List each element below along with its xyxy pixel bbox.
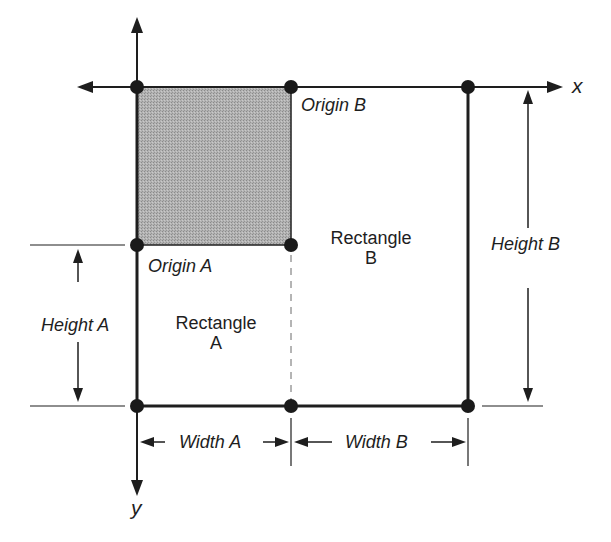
height-a-label: Height A <box>41 316 109 334</box>
vertex-dot <box>130 238 144 252</box>
x-axis-right-arrow-icon <box>547 81 563 93</box>
vertex-dot <box>130 80 144 94</box>
coordinate-diagram <box>0 0 611 542</box>
origin-a-label: Origin A <box>148 257 212 275</box>
x-axis-label: x <box>572 75 583 96</box>
shaded-region <box>137 87 291 245</box>
rectangle-a-label-line2: A <box>161 333 271 353</box>
rectangle-b-label: Rectangle B <box>316 228 426 268</box>
y-axis-down-arrow-icon <box>131 480 143 496</box>
y-axis-up-arrow-icon <box>131 17 143 33</box>
width-a-label: Width A <box>179 433 241 451</box>
rectangle-a-label: Rectangle A <box>161 313 271 353</box>
rectangle-b-label-line1: Rectangle <box>316 228 426 248</box>
vertex-dot <box>461 399 475 413</box>
x-axis-left-arrow-icon <box>77 81 93 93</box>
extension-lines <box>30 245 543 466</box>
y-axis-label: y <box>131 497 142 518</box>
vertex-dot <box>284 238 298 252</box>
origin-b-label: Origin B <box>301 96 366 114</box>
vertex-dot <box>130 399 144 413</box>
rectangle-b-label-line2: B <box>316 248 426 268</box>
height-b-label: Height B <box>491 235 560 253</box>
width-b-label: Width B <box>345 433 408 451</box>
vertex-dot <box>461 80 475 94</box>
vertex-dot <box>284 399 298 413</box>
rectangle-a-label-line1: Rectangle <box>161 313 271 333</box>
vertex-dot <box>284 80 298 94</box>
